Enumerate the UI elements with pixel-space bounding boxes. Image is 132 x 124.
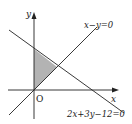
coordinate-diagram: y x O x−y=0 2x+3y−12=0 xyxy=(0,0,132,124)
x-axis-arrow-icon xyxy=(112,88,119,93)
y-axis-arrow-icon xyxy=(32,12,37,19)
line-2x-plus-3y-minus-12 xyxy=(9,30,124,113)
y-axis-label: y xyxy=(25,9,32,19)
shaded-region xyxy=(34,49,57,90)
line-1-label: x−y=0 xyxy=(84,20,114,30)
x-axis-label: x xyxy=(111,94,116,104)
line-2-label: 2x+3y−12=0 xyxy=(66,109,126,119)
line-x-minus-y xyxy=(9,27,97,115)
origin-label: O xyxy=(36,94,43,104)
